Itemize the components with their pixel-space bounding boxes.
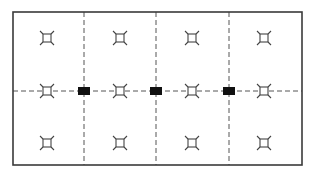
lighting-plan-diagram <box>0 0 318 178</box>
light-fixture-icon <box>185 136 199 150</box>
light-fixture-icon <box>113 84 127 98</box>
light-fixture-icon <box>185 84 199 98</box>
light-fixture-icon <box>40 31 54 45</box>
light-fixture-icon <box>257 31 271 45</box>
light-fixture-icon <box>257 84 271 98</box>
junction-box-icon <box>78 87 90 95</box>
light-fixture-icon <box>113 136 127 150</box>
junction-box-icon <box>223 87 235 95</box>
junction-box-icon <box>150 87 162 95</box>
light-fixture-icon <box>40 84 54 98</box>
light-fixture-icon <box>113 31 127 45</box>
light-fixture-icon <box>40 136 54 150</box>
light-fixture-icon <box>257 136 271 150</box>
light-fixture-icon <box>185 31 199 45</box>
